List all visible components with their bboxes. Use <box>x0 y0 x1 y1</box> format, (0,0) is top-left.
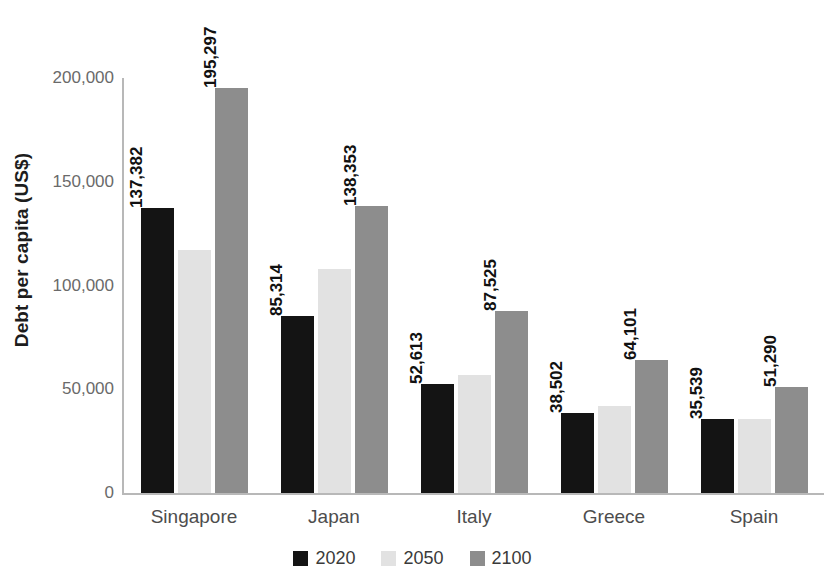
bar-column[interactable]: 51,290 <box>775 387 808 493</box>
bar-value-label: 52,613 <box>417 358 437 410</box>
legend-item-2050[interactable]: 2050 <box>381 548 443 569</box>
bar-2100[interactable] <box>355 206 388 493</box>
bar-2050[interactable] <box>458 375 491 493</box>
bar-column[interactable] <box>318 269 351 493</box>
legend-label: 2020 <box>315 548 355 569</box>
bar-value-label: 137,382 <box>137 177 157 238</box>
bar-group: 52,61387,525 <box>404 78 544 493</box>
bar-value-label: 195,297 <box>211 57 231 118</box>
x-axis-category-spain: Spain <box>684 500 824 534</box>
bar-2020[interactable] <box>141 208 174 493</box>
bar-2050[interactable] <box>178 250 211 493</box>
bar-column[interactable]: 52,613 <box>421 384 454 493</box>
bar-column[interactable]: 85,314 <box>281 316 314 493</box>
y-axis-tick: 0 <box>18 483 114 503</box>
bar-column[interactable]: 38,502 <box>561 413 594 493</box>
bar-2100[interactable] <box>215 88 248 493</box>
bar-value-label: 38,502 <box>557 387 577 439</box>
bar-group: 38,50264,101 <box>544 78 684 493</box>
y-axis-tick: 200,000 <box>18 68 114 88</box>
chart-legend: 202020502100 <box>0 548 825 569</box>
bar-column[interactable]: 195,297 <box>215 88 248 493</box>
bar-value-label: 64,101 <box>631 334 651 386</box>
y-axis-tick: 50,000 <box>18 379 114 399</box>
legend-swatch-icon <box>470 551 485 566</box>
legend-label: 2100 <box>492 548 532 569</box>
bar-value-label: 138,353 <box>351 175 371 236</box>
bar-value-label: 85,314 <box>277 290 297 342</box>
bar-group: 137,382195,297 <box>124 78 264 493</box>
bar-column[interactable]: 137,382 <box>141 208 174 493</box>
y-axis-tick: 150,000 <box>18 172 114 192</box>
bar-2020[interactable] <box>281 316 314 493</box>
legend-swatch-icon <box>293 551 308 566</box>
legend-label: 2050 <box>403 548 443 569</box>
x-axis-category-labels: SingaporeJapanItalyGreeceSpain <box>124 500 824 534</box>
bar-column[interactable]: 64,101 <box>635 360 668 493</box>
plot-area: 137,382195,29785,314138,35352,61387,5253… <box>122 78 824 495</box>
y-axis-tick: 100,000 <box>18 276 114 296</box>
bar-group: 35,53951,290 <box>684 78 824 493</box>
y-axis-tick-labels: 200,000150,000100,00050,0000 <box>18 0 114 577</box>
x-axis-category-greece: Greece <box>544 500 684 534</box>
legend-item-2020[interactable]: 2020 <box>293 548 355 569</box>
x-axis-category-italy: Italy <box>404 500 544 534</box>
bar-column[interactable]: 87,525 <box>495 311 528 493</box>
x-axis-category-japan: Japan <box>264 500 404 534</box>
bar-2050[interactable] <box>738 419 771 493</box>
bar-groups: 137,382195,29785,314138,35352,61387,5253… <box>124 78 824 493</box>
bar-column[interactable] <box>458 375 491 493</box>
bar-2050[interactable] <box>318 269 351 493</box>
bar-column[interactable] <box>738 419 771 493</box>
bar-column[interactable] <box>598 406 631 493</box>
bar-2050[interactable] <box>598 406 631 493</box>
bar-value-label: 87,525 <box>491 285 511 337</box>
bar-column[interactable] <box>178 250 211 493</box>
legend-item-2100[interactable]: 2100 <box>470 548 532 569</box>
bar-column[interactable]: 35,539 <box>701 419 734 493</box>
legend-swatch-icon <box>381 551 396 566</box>
x-axis-category-singapore: Singapore <box>124 500 264 534</box>
bar-value-label: 51,290 <box>771 361 791 413</box>
bar-2100[interactable] <box>495 311 528 493</box>
bar-value-label: 35,539 <box>697 393 717 445</box>
bar-chart: Debt per capita (US$) 200,000150,000100,… <box>0 0 825 577</box>
bar-column[interactable]: 138,353 <box>355 206 388 493</box>
bar-group: 85,314138,353 <box>264 78 404 493</box>
